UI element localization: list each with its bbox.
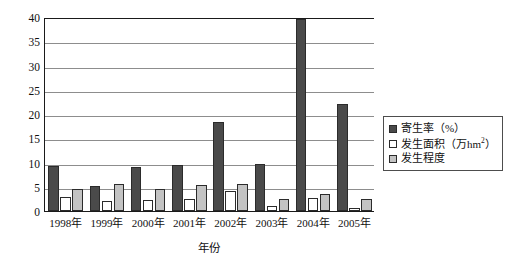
y-axis-tick-label: 35 xyxy=(29,38,41,50)
y-axis-tick-label: 30 xyxy=(29,62,41,74)
bar-group xyxy=(296,19,331,211)
bar xyxy=(131,167,142,211)
x-axis-tick-label: 2000年 xyxy=(132,218,165,229)
bar xyxy=(337,104,348,211)
x-axis-title: 年份 xyxy=(44,243,374,255)
bar xyxy=(225,191,236,211)
x-axis-tick-label: 1999年 xyxy=(90,218,123,229)
bar xyxy=(114,184,125,211)
bar xyxy=(60,197,71,211)
bar-group xyxy=(255,19,290,211)
y-axis-tick-label: 0 xyxy=(34,207,40,219)
x-axis-tick-label: 2003年 xyxy=(255,218,288,229)
x-axis-tick-label: 2001年 xyxy=(173,218,206,229)
bar xyxy=(184,199,195,211)
x-axis-tick-label: 1998年 xyxy=(49,218,82,229)
y-axis-tick-label: 20 xyxy=(29,110,41,122)
bars-layer xyxy=(45,19,374,211)
legend-label: 发生程度 xyxy=(401,153,445,164)
bar-group xyxy=(213,19,248,211)
bar xyxy=(279,199,290,211)
bar-group xyxy=(337,19,372,211)
bar-group xyxy=(48,19,83,211)
y-axis-tick-label: 25 xyxy=(29,86,41,98)
legend-label: 发生面积（万hm2） xyxy=(401,137,496,150)
bar xyxy=(172,165,183,211)
bar-group xyxy=(90,19,125,211)
bar xyxy=(196,185,207,211)
bar xyxy=(90,186,101,211)
x-axis-tick-label: 2004年 xyxy=(297,218,330,229)
bar xyxy=(72,189,83,211)
bar-chart: 0510152025303540 1998年1999年2000年2001年200… xyxy=(0,0,523,274)
bar xyxy=(143,200,154,211)
x-axis-tick-label: 2005年 xyxy=(338,218,371,229)
y-axis-tick-label: 15 xyxy=(29,135,41,147)
bar xyxy=(320,194,331,211)
legend: 寄生率（%）发生面积（万hm2）发生程度 xyxy=(383,116,503,171)
legend-swatch-icon xyxy=(389,140,397,148)
bar-group xyxy=(172,19,207,211)
bar xyxy=(213,122,224,211)
legend-item[interactable]: 发生面积（万hm2） xyxy=(389,136,496,151)
bar xyxy=(48,166,59,211)
plot-area: 0510152025303540 1998年1999年2000年2001年200… xyxy=(44,18,374,212)
legend-item[interactable]: 发生程度 xyxy=(389,151,496,166)
legend-label: 寄生率（%） xyxy=(401,123,465,134)
x-axis-tick-label: 2002年 xyxy=(214,218,247,229)
legend-swatch-icon xyxy=(389,125,397,133)
y-axis-tick-label: 40 xyxy=(29,13,41,25)
y-axis-tick-label: 5 xyxy=(34,183,40,195)
bar xyxy=(296,19,307,211)
bar xyxy=(102,201,113,211)
bar xyxy=(361,199,372,211)
bar xyxy=(255,164,266,211)
bar xyxy=(349,208,360,211)
bar-group xyxy=(131,19,166,211)
legend-item[interactable]: 寄生率（%） xyxy=(389,121,496,136)
bar xyxy=(308,198,319,211)
bar xyxy=(237,184,248,211)
bar xyxy=(155,189,166,211)
bar xyxy=(267,206,278,211)
y-axis-tick-label: 10 xyxy=(29,159,41,171)
legend-swatch-icon xyxy=(389,155,397,163)
